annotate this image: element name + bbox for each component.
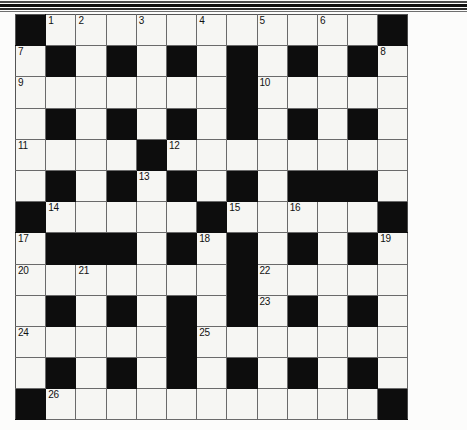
crossword-cell[interactable] [136,46,166,77]
crossword-cell[interactable] [317,358,347,389]
crossword-cell[interactable] [76,295,106,326]
crossword-cell[interactable] [136,202,166,233]
crossword-cell[interactable] [136,358,166,389]
crossword-cell[interactable] [76,358,106,389]
crossword-cell[interactable] [378,108,408,139]
crossword-cell[interactable] [317,202,347,233]
crossword-cell[interactable]: 4 [197,15,227,46]
crossword-cell[interactable] [257,358,287,389]
crossword-cell[interactable] [317,77,347,108]
crossword-cell[interactable] [106,202,136,233]
crossword-cell[interactable] [136,264,166,295]
crossword-cell[interactable] [197,139,227,170]
crossword-cell[interactable] [348,139,378,170]
crossword-cell[interactable] [136,389,166,420]
crossword-cell[interactable] [16,295,46,326]
crossword-cell[interactable] [378,358,408,389]
crossword-cell[interactable]: 9 [16,77,46,108]
crossword-cell[interactable] [378,77,408,108]
crossword-cell[interactable] [197,264,227,295]
crossword-cell[interactable] [257,202,287,233]
crossword-cell[interactable] [287,15,317,46]
crossword-cell[interactable] [16,358,46,389]
crossword-cell[interactable] [136,233,166,264]
crossword-cell[interactable] [348,326,378,357]
crossword-cell[interactable] [136,326,166,357]
crossword-cell[interactable]: 25 [197,326,227,357]
crossword-cell[interactable] [227,15,257,46]
crossword-cell[interactable] [257,170,287,201]
crossword-cell[interactable]: 5 [257,15,287,46]
crossword-cell[interactable] [348,264,378,295]
crossword-cell[interactable]: 19 [378,233,408,264]
crossword-cell[interactable] [166,202,196,233]
crossword-cell[interactable] [46,139,76,170]
crossword-cell[interactable]: 26 [46,389,76,420]
crossword-cell[interactable]: 16 [287,202,317,233]
crossword-cell[interactable]: 8 [378,46,408,77]
crossword-grid[interactable]: 1234567891011121314151617181920212223242… [15,14,408,420]
crossword-cell[interactable] [136,77,166,108]
crossword-cell[interactable] [197,108,227,139]
crossword-cell[interactable]: 1 [46,15,76,46]
crossword-cell[interactable] [287,264,317,295]
crossword-cell[interactable] [317,46,347,77]
crossword-cell[interactable] [317,233,347,264]
crossword-cell[interactable] [166,15,196,46]
crossword-cell[interactable]: 12 [166,139,196,170]
crossword-cell[interactable] [197,295,227,326]
crossword-cell[interactable] [378,170,408,201]
crossword-cell[interactable]: 2 [76,15,106,46]
crossword-cell[interactable] [76,389,106,420]
crossword-cell[interactable] [197,46,227,77]
crossword-cell[interactable] [378,326,408,357]
crossword-cell[interactable] [257,389,287,420]
crossword-cell[interactable]: 13 [136,170,166,201]
crossword-cell[interactable]: 21 [76,264,106,295]
crossword-cell[interactable]: 11 [16,139,46,170]
crossword-cell[interactable] [287,139,317,170]
crossword-cell[interactable] [257,139,287,170]
crossword-cell[interactable] [287,326,317,357]
crossword-cell[interactable] [227,389,257,420]
crossword-cell[interactable] [378,295,408,326]
crossword-cell[interactable]: 23 [257,295,287,326]
crossword-cell[interactable] [317,264,347,295]
crossword-cell[interactable] [197,358,227,389]
crossword-cell[interactable] [106,326,136,357]
crossword-cell[interactable] [227,326,257,357]
crossword-cell[interactable] [46,264,76,295]
crossword-cell[interactable] [378,264,408,295]
crossword-cell[interactable] [348,202,378,233]
crossword-cell[interactable] [257,46,287,77]
crossword-cell[interactable] [106,15,136,46]
crossword-cell[interactable] [76,77,106,108]
crossword-cell[interactable]: 10 [257,77,287,108]
crossword-cell[interactable] [106,139,136,170]
crossword-cell[interactable] [166,389,196,420]
crossword-cell[interactable] [46,77,76,108]
crossword-cell[interactable] [317,326,347,357]
crossword-cell[interactable] [76,202,106,233]
crossword-cell[interactable] [166,264,196,295]
crossword-cell[interactable] [136,108,166,139]
crossword-cell[interactable] [348,389,378,420]
crossword-cell[interactable] [106,389,136,420]
crossword-cell[interactable] [197,77,227,108]
crossword-cell[interactable] [16,170,46,201]
crossword-cell[interactable] [46,326,76,357]
crossword-cell[interactable]: 20 [16,264,46,295]
crossword-cell[interactable]: 24 [16,326,46,357]
crossword-cell[interactable]: 14 [46,202,76,233]
crossword-cell[interactable]: 7 [16,46,46,77]
crossword-cell[interactable] [257,326,287,357]
crossword-cell[interactable] [348,15,378,46]
crossword-cell[interactable] [317,389,347,420]
crossword-cell[interactable] [76,108,106,139]
crossword-cell[interactable] [76,139,106,170]
crossword-cell[interactable] [76,326,106,357]
crossword-cell[interactable] [197,170,227,201]
crossword-cell[interactable] [197,389,227,420]
crossword-cell[interactable] [76,46,106,77]
crossword-cell[interactable] [287,77,317,108]
